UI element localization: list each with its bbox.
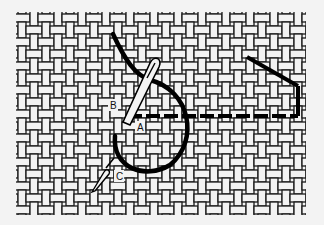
stitch-diagram: B A C xyxy=(0,0,324,225)
label-c: C xyxy=(116,171,123,182)
label-a: A xyxy=(137,122,144,133)
label-b: B xyxy=(110,100,117,111)
